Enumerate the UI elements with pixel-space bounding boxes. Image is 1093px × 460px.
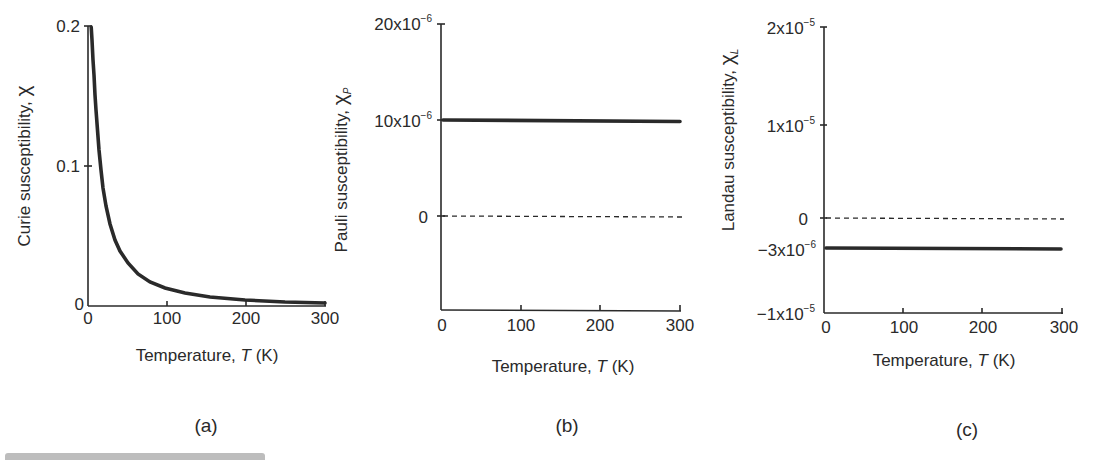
chart-c-xtick-200: 200 (969, 318, 997, 337)
chart-b-x-axis (441, 310, 681, 311)
chart-a-xtick-300: 300 (311, 309, 339, 328)
chart-c: 2x10−5 1x10−5 0 −3x10−6 −1x10−5 0 100 20… (715, 17, 1078, 440)
chart-b-ytick-10e-6: 10x10−6 (374, 110, 432, 131)
footer-gray-bar (5, 453, 265, 460)
chart-b-ylabel: Pauli susceptibility, χP (328, 87, 353, 252)
chart-a-xtick-100: 100 (153, 309, 181, 328)
chart-c-xtick-300: 300 (1050, 318, 1078, 337)
chart-b-xtick-200: 200 (586, 316, 614, 335)
panel-label-c: (c) (956, 419, 978, 440)
chart-b-xtick-300: 300 (666, 316, 694, 335)
chart-c-landau-line (826, 248, 1061, 249)
chart-c-xtick-100: 100 (890, 318, 918, 337)
chart-c-ytick-2e-5: 2x10−5 (767, 17, 816, 38)
chart-a: 0.2 0.1 0 0 100 200 300 Curie susceptibi… (11, 17, 339, 436)
chart-a-xlabel: Temperature, T (K) (136, 346, 279, 365)
chart-a-xtick-0: 0 (83, 309, 92, 328)
chart-c-xlabel: Temperature, T (K) (873, 351, 1016, 370)
chart-c-ytick-minus1e-5: −1x10−5 (757, 303, 816, 324)
chart-c-zero-dashed-line (826, 218, 1064, 219)
figure-canvas: 0.2 0.1 0 0 100 200 300 Curie susceptibi… (0, 0, 1093, 460)
chart-b: 20x10−6 10x10−6 0 0 100 200 300 Pauli su… (328, 13, 694, 436)
chart-c-xtick-0: 0 (821, 318, 830, 337)
chart-b-ytick-0: 0 (419, 208, 428, 227)
chart-a-curie-curve (91, 27, 325, 303)
chart-b-xlabel: Temperature, T (K) (492, 357, 635, 376)
chart-c-ytick-minus3e-6: −3x10−6 (758, 239, 817, 260)
chart-c-ytick-0: 0 (799, 210, 808, 229)
panel-label-b: (b) (555, 415, 578, 436)
chart-c-ytick-1e-5: 1x10−5 (767, 115, 816, 136)
chart-a-ytick-0.1: 0.1 (56, 157, 80, 176)
chart-b-xtick-100: 100 (507, 316, 535, 335)
chart-b-pauli-line (443, 120, 680, 122)
chart-a-ylabel: Curie susceptibility, χ (11, 86, 34, 247)
chart-b-xtick-0: 0 (437, 316, 446, 335)
chart-a-ytick-0.2: 0.2 (56, 17, 80, 36)
chart-b-zero-dashed-line (443, 216, 682, 217)
chart-a-xtick-200: 200 (232, 309, 260, 328)
chart-c-ylabel: Landau susceptibility, χL (715, 49, 740, 232)
chart-b-ytick-20e-6: 20x10−6 (374, 13, 432, 34)
panel-label-a: (a) (194, 415, 217, 436)
